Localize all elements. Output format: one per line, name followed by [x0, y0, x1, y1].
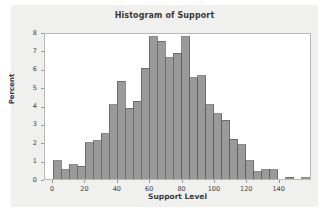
histogram-bar: [125, 108, 133, 179]
x-axis-tick-mark: [246, 180, 247, 183]
y-axis-tick-label: 1: [15, 158, 37, 165]
histogram-bar: [246, 161, 254, 179]
y-axis-tick-label: 7: [15, 48, 37, 55]
histogram-bar: [141, 68, 149, 179]
y-axis: Percent 012345678: [0, 33, 44, 181]
histogram-bar: [206, 105, 214, 179]
histogram-bar: [77, 166, 85, 179]
histogram-bar: [61, 170, 69, 179]
histogram-bar: [222, 120, 230, 179]
histogram-bar: [101, 134, 109, 179]
x-axis-tick-mark: [52, 180, 53, 183]
x-axis-tick-mark: [117, 180, 118, 183]
histogram-bar: [270, 170, 278, 179]
x-axis-tick-mark: [214, 180, 215, 183]
chart-title: Histogram of Support: [11, 11, 318, 21]
x-axis-tick-mark: [182, 180, 183, 183]
histogram-bar: [93, 141, 101, 179]
x-axis-tick-mark: [84, 180, 85, 183]
x-axis-label: Support Level: [44, 192, 311, 201]
histogram-bar: [230, 139, 238, 179]
histogram-figure: Histogram of Support Percent 012345678 0…: [0, 0, 329, 217]
y-axis-tick-label: 3: [15, 121, 37, 128]
histogram-bar: [286, 177, 294, 179]
histogram-bar: [182, 37, 190, 179]
histogram-bar: [149, 37, 157, 179]
histogram-bar: [190, 78, 198, 180]
histogram-bar: [69, 165, 77, 180]
plot-frame: [44, 33, 311, 180]
histogram-bar: [53, 161, 61, 179]
histogram-bar: [157, 41, 165, 179]
y-axis-tick-label: 2: [15, 140, 37, 147]
histogram-bar: [109, 105, 117, 179]
x-axis-tick-mark: [279, 180, 280, 183]
histogram-bar: [302, 178, 310, 179]
histogram-bar: [173, 53, 181, 179]
histogram-bar: [198, 76, 206, 179]
y-axis-tick-label: 6: [15, 66, 37, 73]
histogram-bar: [262, 170, 270, 179]
histogram-bars: [45, 34, 310, 179]
x-axis-tick-mark: [149, 180, 150, 183]
histogram-bar: [117, 81, 125, 179]
histogram-bar: [85, 143, 93, 179]
histogram-bar: [165, 58, 173, 179]
y-axis-tick-label: 4: [15, 103, 37, 110]
histogram-bar: [214, 114, 222, 179]
y-axis-tick-label: 5: [15, 85, 37, 92]
y-axis-tick-label: 0: [15, 177, 37, 184]
histogram-bar: [254, 172, 262, 179]
y-axis-tick-label: 8: [15, 30, 37, 37]
plot-area: [45, 34, 310, 179]
histogram-bar: [238, 145, 246, 179]
histogram-bar: [133, 101, 141, 179]
